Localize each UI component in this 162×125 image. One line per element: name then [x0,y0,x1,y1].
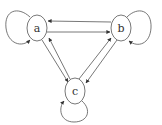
node-c-label: c [72,85,78,98]
edge-a-a [6,11,30,44]
edge-c-b [79,38,111,79]
edge-a-c [42,40,68,82]
edge-b-c [86,40,117,83]
node-b: b [111,15,131,41]
edge-b-a [48,21,111,22]
edge-c-a [49,38,70,79]
node-b-label: b [117,22,124,35]
node-a-label: a [34,22,41,35]
node-a: a [27,15,47,41]
node-c: c [65,78,85,104]
state-graph: a b c [0,0,162,125]
